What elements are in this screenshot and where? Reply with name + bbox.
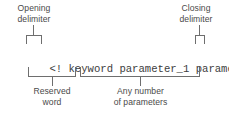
label-reserved-word-line1: Reserved xyxy=(18,86,86,97)
leader-line-parameters xyxy=(140,76,141,86)
label-opening-delimiter: Opening delimiter xyxy=(0,3,68,24)
leader-line-reserved-word xyxy=(52,76,53,86)
leader-line-closing-delimiter xyxy=(199,25,200,35)
bracket-closing-delimiter xyxy=(195,35,205,45)
label-closing-delimiter: Closing delimiter xyxy=(163,3,229,24)
leader-line-opening-delimiter xyxy=(33,25,34,35)
label-reserved-word: Reserved word xyxy=(18,86,86,107)
label-parameters-line2: of parameters xyxy=(101,97,180,108)
syntax-diagram: Opening delimiter Closing delimiter <! k… xyxy=(0,0,229,116)
label-opening-delimiter-line2: delimiter xyxy=(0,14,68,25)
label-parameters: Any number of parameters xyxy=(101,86,180,107)
label-closing-delimiter-line2: delimiter xyxy=(163,14,229,25)
label-parameters-line1: Any number xyxy=(101,86,180,97)
code-parameter-2: parameter_2 xyxy=(196,63,229,75)
label-opening-delimiter-line1: Opening xyxy=(0,3,68,14)
label-closing-delimiter-line1: Closing xyxy=(163,3,229,14)
bracket-opening-delimiter xyxy=(26,35,42,45)
label-reserved-word-line2: word xyxy=(18,97,86,108)
